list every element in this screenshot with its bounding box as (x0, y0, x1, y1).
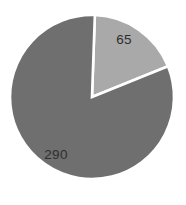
pie-slices-group (10, 15, 174, 179)
pie-chart-svg: 65290 (0, 0, 186, 205)
pie-slice-label-290: 290 (44, 147, 67, 162)
pie-chart-figure: 65290 (0, 0, 186, 205)
pie-slice-label-65: 65 (116, 32, 132, 47)
